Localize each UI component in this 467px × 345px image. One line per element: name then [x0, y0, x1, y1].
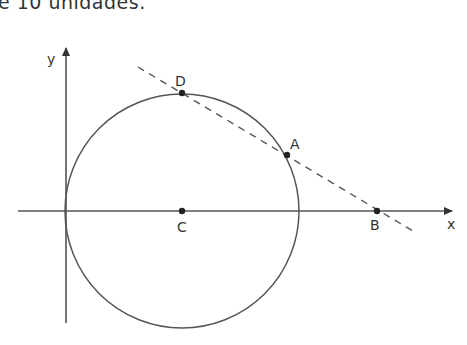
label-c: C	[177, 219, 187, 235]
point-d-dot	[179, 90, 185, 96]
label-x: x	[447, 216, 455, 232]
label-y: y	[47, 51, 55, 67]
geometry-diagram: y x D A B C	[0, 0, 467, 345]
label-a: A	[290, 136, 300, 152]
point-b-dot	[374, 208, 380, 214]
label-b: B	[370, 217, 380, 233]
label-d: D	[175, 73, 186, 89]
point-c-dot	[179, 208, 185, 214]
point-a-dot	[284, 152, 290, 158]
